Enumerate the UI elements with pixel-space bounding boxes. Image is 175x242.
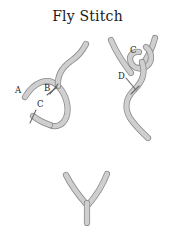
figure-group: A B C C D	[0, 0, 175, 242]
stitch-diagram-page: Fly Stitch A B C	[0, 0, 175, 242]
figure-step-3-finished-fly-stitch	[52, 163, 124, 235]
figure-label-c-step2: C	[130, 45, 137, 55]
figure-label-c: C	[37, 99, 44, 109]
figure-step-2-knot-pull-through: C D	[98, 32, 175, 144]
thread-left-arm-fill-3	[66, 175, 87, 205]
stitch-tick-at-d-icon	[126, 78, 136, 90]
figure-label-a: A	[14, 85, 22, 95]
figure-step-1-loop-with-needle: A B C	[0, 32, 95, 132]
thread-lower-fill-1	[33, 116, 50, 125]
figure-label-d: D	[118, 71, 125, 81]
figure-label-b: B	[44, 83, 50, 93]
thread-right-arm-fill-3	[88, 174, 107, 205]
